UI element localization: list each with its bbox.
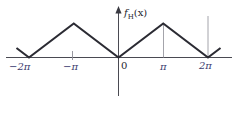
triangular-wave-figure: −2π −π 0 π 2π fH(x)	[0, 0, 236, 117]
xtick-label-pi: π	[160, 62, 167, 72]
y-axis-title: fH(x)	[124, 8, 147, 21]
plot-canvas	[0, 0, 236, 117]
xtick-label-zero: 0	[121, 61, 127, 71]
y-axis-title-argument: (x)	[134, 7, 147, 18]
xtick-label-minus-2pi: −2π	[9, 62, 30, 72]
xtick-label-minus-pi: −π	[63, 62, 78, 72]
xtick-label-2pi: 2π	[199, 61, 212, 71]
y-axis-arrow-icon	[115, 6, 121, 14]
